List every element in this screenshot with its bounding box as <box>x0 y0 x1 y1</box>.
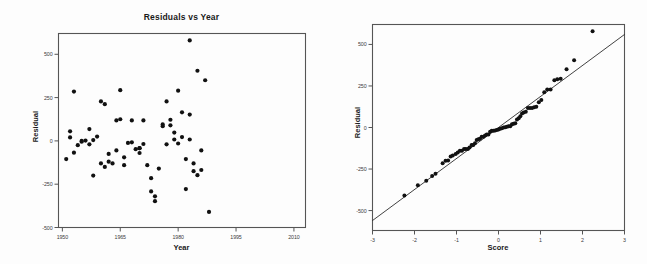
left-y-axis-label: Residual <box>31 97 40 157</box>
data-point <box>555 77 559 81</box>
y-tick-label: -250 <box>333 166 367 172</box>
data-point <box>191 161 195 165</box>
x-tick-label: 1950 <box>42 234 82 240</box>
data-point <box>80 139 84 143</box>
data-point <box>195 69 199 73</box>
right-x-axis-label: Score <box>372 243 624 252</box>
data-point <box>164 142 168 146</box>
data-point <box>87 127 91 131</box>
data-point <box>549 88 553 92</box>
data-point <box>513 121 517 125</box>
data-point <box>191 169 195 173</box>
data-point <box>72 151 76 155</box>
data-point <box>188 38 192 42</box>
data-point <box>153 194 157 198</box>
data-point <box>76 143 80 147</box>
x-tick-label: 1965 <box>100 234 140 240</box>
left-x-axis-label: Year <box>58 243 305 252</box>
x-tick-label: 1995 <box>216 234 256 240</box>
data-point <box>161 124 165 128</box>
data-point <box>203 78 207 82</box>
data-point <box>118 117 122 121</box>
data-point <box>64 157 68 161</box>
left-plot-frame <box>59 34 306 228</box>
data-point <box>72 89 76 93</box>
x-tick-label: 3 <box>605 237 645 243</box>
y-tick-label: 250 <box>19 95 53 101</box>
x-tick-label: 2 <box>563 237 603 243</box>
data-point <box>199 168 203 172</box>
data-point <box>149 176 153 180</box>
data-point <box>184 187 188 191</box>
data-point <box>110 161 114 165</box>
y-tick-label: 500 <box>19 51 53 57</box>
data-point <box>103 102 107 106</box>
data-point <box>199 148 203 152</box>
data-point <box>87 142 91 146</box>
data-point <box>107 160 111 164</box>
data-point <box>434 172 438 176</box>
data-point <box>430 174 434 178</box>
data-point <box>195 173 199 177</box>
data-point <box>188 112 192 116</box>
right-chart-canvas <box>330 0 647 264</box>
data-point <box>591 29 595 33</box>
data-point <box>180 110 184 114</box>
data-point <box>172 137 176 141</box>
data-point <box>137 151 141 155</box>
x-tick-label: 2010 <box>274 234 314 240</box>
data-point <box>424 179 428 183</box>
data-point <box>559 77 563 81</box>
y-tick-label: 250 <box>333 83 367 89</box>
right-tickmarks <box>369 44 625 234</box>
left-scatter-points <box>64 38 211 214</box>
y-tick-label: 0 <box>19 138 53 144</box>
data-point <box>157 167 161 171</box>
x-tick-label: 1980 <box>158 234 198 240</box>
data-point <box>534 105 538 109</box>
data-point <box>122 163 126 167</box>
y-tick-label: -250 <box>19 181 53 187</box>
data-point <box>180 135 184 139</box>
data-point <box>176 89 180 93</box>
data-point <box>68 129 72 133</box>
right-scatter-points <box>402 29 594 197</box>
y-tick-label: 500 <box>333 41 367 47</box>
data-point <box>122 155 126 159</box>
data-point <box>137 146 141 150</box>
x-tick-label: -2 <box>395 237 435 243</box>
data-point <box>207 210 211 214</box>
y-tick-label: 0 <box>333 125 367 131</box>
data-point <box>130 140 134 144</box>
data-point <box>99 99 103 103</box>
data-point <box>153 199 157 203</box>
x-tick-label: -3 <box>353 237 393 243</box>
data-point <box>572 58 576 62</box>
data-point <box>565 67 569 71</box>
data-point <box>184 157 188 161</box>
data-point <box>107 152 111 156</box>
chart-panel-normal-qq: Residual Score -3-2-10123 5002500-250-50… <box>330 0 647 264</box>
data-point <box>91 138 95 142</box>
data-point <box>118 88 122 92</box>
data-point <box>172 130 176 134</box>
data-point <box>95 134 99 138</box>
data-point <box>68 135 72 139</box>
data-point <box>99 161 103 165</box>
data-point <box>145 163 149 167</box>
x-tick-label: 1 <box>521 237 561 243</box>
y-tick-label: -500 <box>333 208 367 214</box>
x-tick-label: -1 <box>437 237 477 243</box>
data-point <box>539 98 543 102</box>
left-chart-title: Residuals vs Year <box>58 12 305 22</box>
y-tick-label: -500 <box>19 225 53 231</box>
data-point <box>126 141 130 145</box>
data-point <box>114 148 118 152</box>
data-point <box>114 118 118 122</box>
chart-panel-residuals-vs-year: Residuals vs Year Residual Year 19501965… <box>0 0 330 264</box>
figure-page: Residuals vs Year Residual Year 19501965… <box>0 0 647 264</box>
data-point <box>188 137 192 141</box>
data-point <box>168 123 172 127</box>
x-tick-label: 0 <box>479 237 519 243</box>
data-point <box>164 99 168 103</box>
